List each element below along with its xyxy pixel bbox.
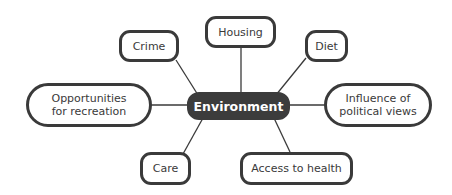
node-label: Access to health: [251, 162, 342, 175]
node-crime: Crime: [119, 30, 179, 62]
node-label: Diet: [315, 40, 338, 53]
node-housing: Housing: [205, 16, 276, 48]
node-label: Crime: [133, 40, 166, 53]
node-health: Access to health: [240, 152, 353, 185]
center-label: Environment: [194, 100, 284, 113]
node-label: Opportunities for recreation: [43, 92, 135, 118]
node-care: Care: [140, 152, 191, 185]
link-crime: [176, 60, 198, 95]
node-label: Care: [153, 162, 178, 175]
link-care: [183, 118, 203, 154]
node-environment: Environment: [187, 92, 290, 120]
link-diet: [276, 58, 306, 95]
node-political: Influence of political views: [324, 83, 432, 127]
node-label: Influence of political views: [337, 92, 419, 118]
link-health: [274, 118, 290, 152]
node-diet: Diet: [305, 30, 348, 62]
node-label: Housing: [218, 26, 263, 39]
node-recreation: Opportunities for recreation: [26, 83, 152, 127]
